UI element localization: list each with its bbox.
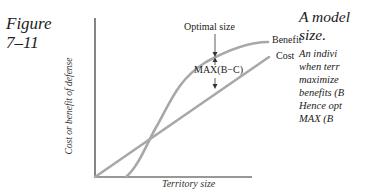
territory-chart [0, 0, 300, 192]
caption-title-line: size. [299, 26, 369, 44]
caption-body-line: MAX (B [299, 112, 369, 125]
cost-line [95, 57, 269, 177]
max-b-minus-c-label: MAX(B−C) [194, 64, 243, 75]
x-axis-label: Territory size [162, 178, 215, 189]
caption-body-line: Hence opt [299, 99, 369, 112]
benefit-curve [126, 42, 268, 177]
caption-title: A model size. [299, 8, 369, 44]
caption-title-line: A model [299, 8, 369, 26]
benefit-series-label: Benefit [272, 34, 301, 45]
arrow-down-icon [213, 84, 218, 89]
caption-body: An indivi when terr maximize benefits (B… [299, 47, 369, 125]
caption-body-line: An indivi [299, 47, 369, 60]
y-axis-label: Cost or benefit of defense [64, 36, 74, 176]
optimal-size-label: Optimal size [184, 21, 235, 32]
caption-body-line: when terr [299, 60, 369, 73]
caption-body-line: benefits (B [299, 86, 369, 99]
cost-series-label: Cost [276, 50, 294, 61]
caption-body-line: maximize [299, 73, 369, 86]
figure-caption: A model size. An indivi when terr maximi… [299, 8, 369, 125]
